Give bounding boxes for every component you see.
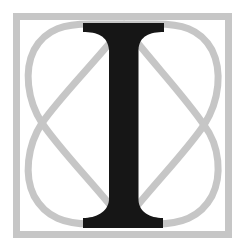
letter-i-glyph [83, 23, 164, 228]
logo: I [0, 0, 243, 246]
logo-graphic [0, 0, 243, 246]
